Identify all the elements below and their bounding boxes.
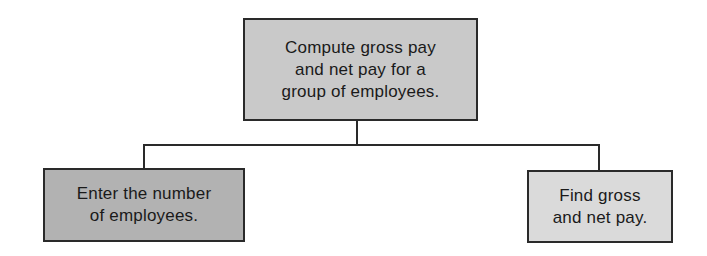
- connector-right-drop: [598, 144, 600, 171]
- root-line-1: Compute gross pay: [285, 37, 436, 59]
- hierarchy-diagram: Compute gross pay and net pay for a grou…: [0, 0, 707, 256]
- connector-left-drop: [143, 144, 145, 169]
- root-module-box: Compute gross pay and net pay for a grou…: [243, 18, 478, 121]
- right-line-1: Find gross: [559, 185, 640, 207]
- root-line-2: and net pay for a: [295, 59, 426, 81]
- connector-root-stem: [356, 121, 358, 146]
- right-line-2: and net pay.: [553, 207, 648, 229]
- root-line-3: group of employees.: [282, 81, 440, 103]
- connector-horizontal: [143, 144, 600, 146]
- child-module-box-enter-employees: Enter the number of employees.: [43, 168, 245, 242]
- left-line-1: Enter the number: [77, 183, 212, 205]
- child-module-box-find-pay: Find gross and net pay.: [527, 170, 673, 243]
- left-line-2: of employees.: [90, 205, 198, 227]
